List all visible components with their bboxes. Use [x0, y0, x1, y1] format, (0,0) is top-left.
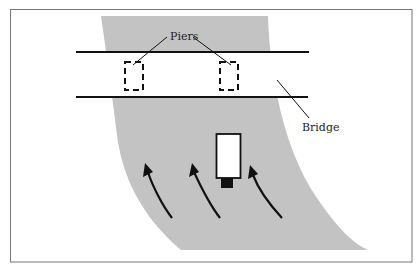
- bridge-label: Bridge: [302, 121, 339, 134]
- piers-label: Piers: [170, 30, 199, 43]
- bridge-pier-diagram: Piers Bridge: [0, 0, 420, 269]
- vehicle-body: [217, 134, 241, 178]
- vehicle-cab: [221, 178, 233, 188]
- bridge-deck: [77, 53, 308, 96]
